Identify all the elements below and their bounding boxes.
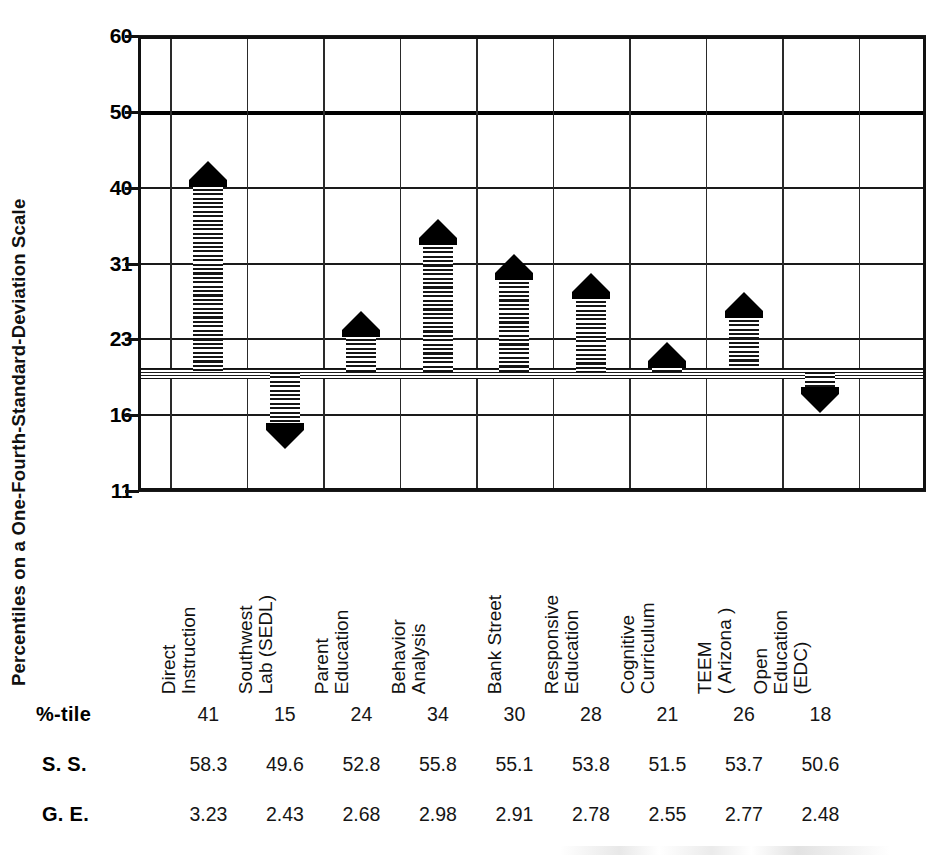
y-tick-mark-31 [125,263,139,266]
table-row-label-1: %-tile [36,703,91,726]
plot-frame-border [138,36,926,491]
category-label-line: Parent [312,609,332,694]
category-label-6: ResponsiveEducation [542,595,582,694]
category-label-5: Bank Street [485,595,505,694]
table-cell: 53.7 [725,753,763,776]
data-table: %-tile411524343028212618S. S.58.349.652.… [0,698,948,848]
category-label-2: SouthwestLab (SEDL) [236,595,276,694]
chart-plot-area [138,36,926,491]
table-row-label-2: S. S. [42,753,87,776]
table-cell: 30 [504,703,526,726]
y-axis-title: Percentiles on a One-Fourth-Standard-Dev… [8,199,30,686]
table-cell: 49.6 [266,753,304,776]
category-label-line: Open [751,609,771,694]
category-label-3: ParentEducation [312,609,352,694]
table-cell: 18 [810,703,832,726]
table-cell: 21 [657,703,679,726]
category-label-line: Lab (SEDL) [256,595,276,694]
table-cell: 51.5 [648,753,686,776]
table-cell: 34 [427,703,449,726]
y-axis-tick-labels: 60504031231611 [72,36,132,491]
category-label-line: Cognitive [618,602,638,694]
y-axis-title-container: Percentiles on a One-Fourth-Standard-Dev… [0,0,46,700]
category-label-line: Education [771,609,791,694]
table-cell: 2.43 [266,803,304,826]
table-cell: 52.8 [342,753,380,776]
category-label-4: BehaviorAnalysis [389,619,429,694]
table-cell: 53.8 [572,753,610,776]
table-cell: 2.98 [419,803,457,826]
y-tick-mark-16 [125,414,139,417]
category-label-line: Direct [159,606,179,694]
table-cell: 55.1 [495,753,533,776]
table-cell: 24 [351,703,373,726]
category-label-line: (EDC) [791,609,811,694]
category-label-8: TEEM( Arizona ) [695,607,735,694]
category-label-line: Instruction [179,606,199,694]
category-label-7: CognitiveCurriculum [618,602,658,694]
y-tick-mark-50 [125,111,139,114]
table-cell: 58.3 [189,753,227,776]
table-cell: 2.48 [801,803,839,826]
table-cell: 2.91 [495,803,533,826]
category-label-line: Analysis [409,619,429,694]
table-cell: 50.6 [801,753,839,776]
x-axis-category-labels: DirectInstructionSouthwestLab (SEDL)Pare… [138,498,926,694]
category-label-line: Southwest [236,595,256,694]
y-tick-mark-40 [125,187,139,190]
table-cell: 2.55 [648,803,686,826]
table-row-label-3: G. E. [42,803,89,826]
table-cell: 41 [198,703,220,726]
table-cell: 55.8 [419,753,457,776]
table-cell: 2.68 [342,803,380,826]
y-tick-mark-60 [125,35,139,38]
category-label-line: ( Arizona ) [715,607,735,694]
category-label-line: Curriculum [638,602,658,694]
category-label-line: TEEM [695,607,715,694]
category-label-line: Education [562,595,582,694]
table-cell: 28 [580,703,602,726]
category-label-line: Education [332,609,352,694]
table-cell: 15 [274,703,296,726]
category-label-line: Bank Street [485,595,505,694]
category-label-line: Behavior [389,619,409,694]
page-bottom-artifact [560,846,890,855]
table-cell: 2.78 [572,803,610,826]
category-label-1: DirectInstruction [159,606,199,694]
category-label-line: Responsive [542,595,562,694]
y-tick-mark-11 [125,490,139,493]
table-cell: 26 [733,703,755,726]
table-cell: 2.77 [725,803,763,826]
y-tick-mark-23 [125,338,139,341]
table-cell: 3.23 [189,803,227,826]
category-label-9: OpenEducation(EDC) [751,609,811,694]
